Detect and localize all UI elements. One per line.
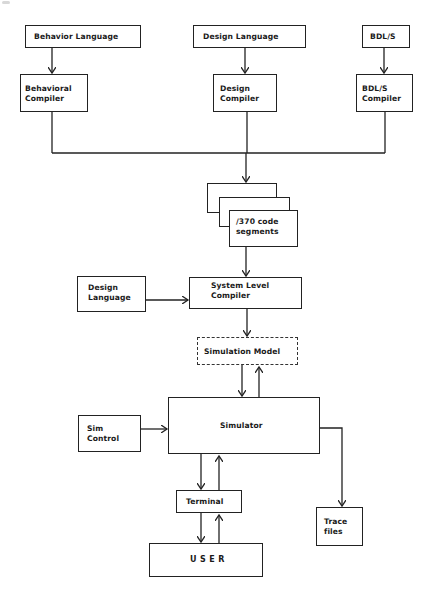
- behavior-language-box: Behavior Language: [25, 25, 141, 48]
- terminal-label: Terminal: [186, 497, 224, 507]
- design-compiler-label: Design Compiler: [220, 84, 259, 104]
- trace-files-label: Trace files: [324, 517, 347, 537]
- code-segments-box: /370 code segments: [229, 210, 298, 247]
- behavioral-compiler-label: Behavioral Compiler: [25, 84, 72, 104]
- simulator-label: Simulator: [220, 421, 263, 431]
- bdls-box: BDL/S: [362, 25, 410, 48]
- system-level-compiler-label: System Level Compiler: [211, 281, 269, 301]
- system-level-compiler-box: System Level Compiler: [189, 277, 302, 309]
- design-language-top-box: Design Language: [193, 25, 306, 48]
- design-language-side-label: Design Language: [88, 283, 131, 303]
- behavior-language-label: Behavior Language: [34, 32, 118, 42]
- bdls-label: BDL/S: [370, 32, 396, 42]
- user-box: USER: [149, 543, 263, 577]
- design-compiler-box: Design Compiler: [213, 74, 277, 112]
- simulation-model-label: Simulation Model: [204, 347, 280, 357]
- compiler-simulation-flow-diagram: Behavior Language Design Language BDL/S …: [0, 0, 434, 598]
- design-language-top-label: Design Language: [203, 32, 278, 42]
- sim-control-label: Sim Control: [87, 424, 119, 444]
- sim-control-box: Sim Control: [78, 415, 141, 452]
- bdls-compiler-box: BDL/S Compiler: [356, 74, 413, 112]
- trace-files-box: Trace files: [316, 507, 363, 546]
- simulator-box: Simulator: [168, 397, 320, 454]
- bdls-compiler-label: BDL/S Compiler: [362, 84, 401, 104]
- user-label: USER: [190, 555, 228, 565]
- simulation-model-box: Simulation Model: [197, 337, 298, 365]
- design-language-side-box: Design Language: [77, 276, 146, 312]
- terminal-box: Terminal: [176, 490, 242, 513]
- code-segments-label: /370 code segments: [236, 217, 279, 237]
- behavioral-compiler-box: Behavioral Compiler: [20, 74, 88, 112]
